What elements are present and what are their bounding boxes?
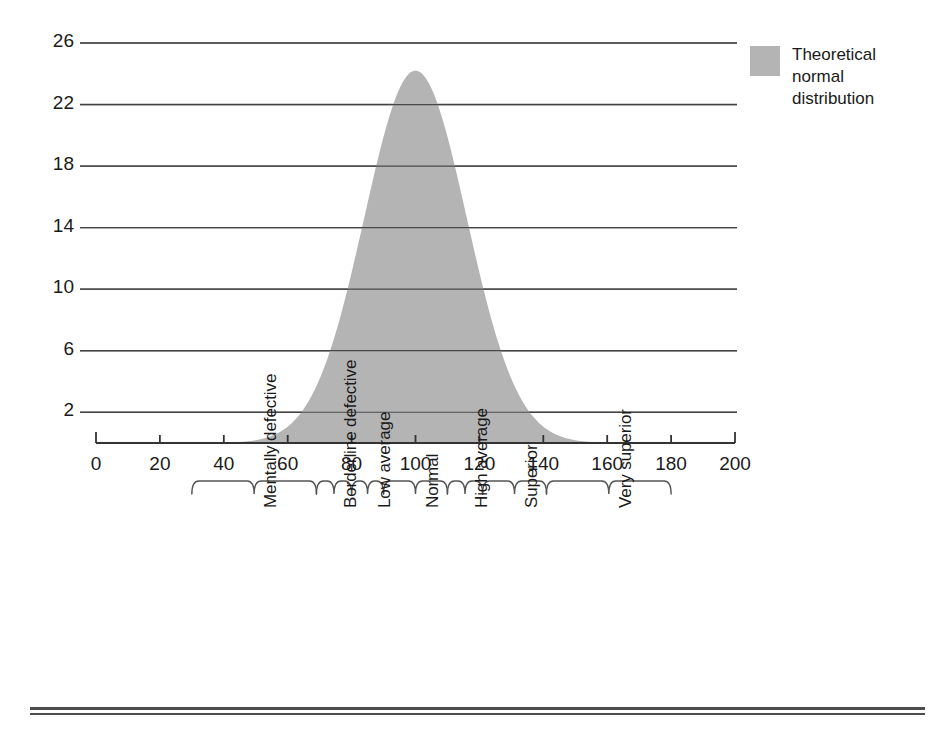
category-label-low-average: Low average bbox=[375, 412, 395, 508]
brace-very-superior bbox=[546, 481, 671, 494]
distribution-area bbox=[185, 71, 645, 443]
category-label-mentally-defective: Mentally defective bbox=[261, 374, 281, 508]
y-tick-label-22: 22 bbox=[28, 92, 74, 114]
figure-container: Percentage of test group 261014182226 02… bbox=[0, 0, 937, 731]
legend-line-2: normal bbox=[792, 66, 876, 88]
y-tick-label-18: 18 bbox=[28, 153, 74, 175]
brace-mentally-defective bbox=[192, 481, 317, 494]
y-tick-label-6: 6 bbox=[28, 338, 74, 360]
category-label-high-average: High average bbox=[472, 408, 492, 508]
y-tick-label-2: 2 bbox=[28, 399, 74, 421]
bottom-rule-line-1 bbox=[30, 707, 925, 710]
legend: Theoretical normal distribution bbox=[750, 44, 876, 110]
legend-label-theoretical-normal: Theoretical normal distribution bbox=[792, 44, 876, 110]
x-tick-label-40: 40 bbox=[194, 453, 254, 475]
category-label-normal: Normal bbox=[423, 454, 443, 508]
y-tick-label-10: 10 bbox=[28, 276, 74, 298]
legend-line-3: distribution bbox=[792, 88, 876, 110]
chart-area: Percentage of test group 261014182226 02… bbox=[0, 0, 937, 690]
x-tick-label-200: 200 bbox=[705, 453, 765, 475]
legend-swatch-theoretical-normal bbox=[750, 46, 780, 76]
category-label-very-superior: Very superior bbox=[616, 409, 636, 508]
category-label-superior: Superior bbox=[522, 445, 542, 508]
legend-line-1: Theoretical bbox=[792, 44, 876, 66]
x-tick-label-180: 180 bbox=[641, 453, 701, 475]
bottom-rule-line-2 bbox=[30, 713, 925, 715]
bottom-rule bbox=[30, 707, 925, 716]
y-tick-label-14: 14 bbox=[28, 215, 74, 237]
x-tick-label-0: 0 bbox=[66, 453, 126, 475]
y-tick-label-26: 26 bbox=[28, 30, 74, 52]
category-label-borderline-defective: Borderline defective bbox=[341, 360, 361, 508]
x-tick-label-20: 20 bbox=[130, 453, 190, 475]
